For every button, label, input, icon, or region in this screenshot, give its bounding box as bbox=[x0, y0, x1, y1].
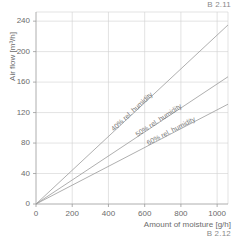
y-tick-label: 240 bbox=[4, 16, 30, 25]
x-tick-label: 200 bbox=[57, 209, 87, 218]
figure: B 2.11 B 2.12 Air flow [m³/h] Amount of … bbox=[0, 0, 235, 239]
x-tick-label: 800 bbox=[166, 209, 196, 218]
x-tick-label: 0 bbox=[21, 209, 51, 218]
y-tick-label: 80 bbox=[4, 138, 30, 147]
chart-plot-area: 40% rel. humidity50% rel. humidity60% re… bbox=[0, 0, 235, 239]
series-labels: 40% rel. humidity50% rel. humidity60% re… bbox=[110, 90, 198, 147]
x-tick-label: 600 bbox=[130, 209, 160, 218]
series-line bbox=[36, 104, 228, 204]
y-tick-label: 120 bbox=[4, 108, 30, 117]
x-tick-label: 1000 bbox=[202, 209, 232, 218]
x-tick-label: 400 bbox=[93, 209, 123, 218]
y-tick-label: 160 bbox=[4, 77, 30, 86]
y-tick-label: 0 bbox=[4, 199, 30, 208]
y-tick-label: 200 bbox=[4, 47, 30, 56]
y-tick-label: 40 bbox=[4, 169, 30, 178]
series-line bbox=[36, 77, 228, 204]
